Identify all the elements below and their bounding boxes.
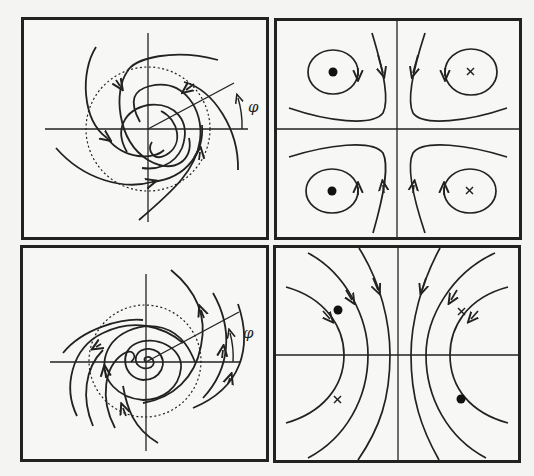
- dot-marker: [328, 187, 337, 196]
- spiral-diagram: [23, 248, 266, 459]
- dot-marker: [329, 68, 338, 77]
- panel-hyperbolic-flow: [273, 245, 521, 463]
- panel-trailing-spiral: φ: [21, 17, 269, 240]
- vortex-diagram: [277, 21, 519, 237]
- panel-vortex-quadrants: [274, 18, 522, 240]
- phi-label: φ: [243, 324, 254, 342]
- cross-marker: [458, 308, 465, 315]
- cross-marker: [334, 396, 341, 403]
- cross-marker: [467, 68, 474, 75]
- phi-label: φ: [248, 98, 259, 116]
- dot-marker: [334, 306, 343, 315]
- panel-leading-spiral: φ: [20, 245, 269, 462]
- cross-marker: [466, 187, 473, 194]
- dot-marker: [457, 395, 466, 404]
- spiral-diagram: [24, 20, 266, 237]
- hyperbola-diagram: [276, 248, 518, 460]
